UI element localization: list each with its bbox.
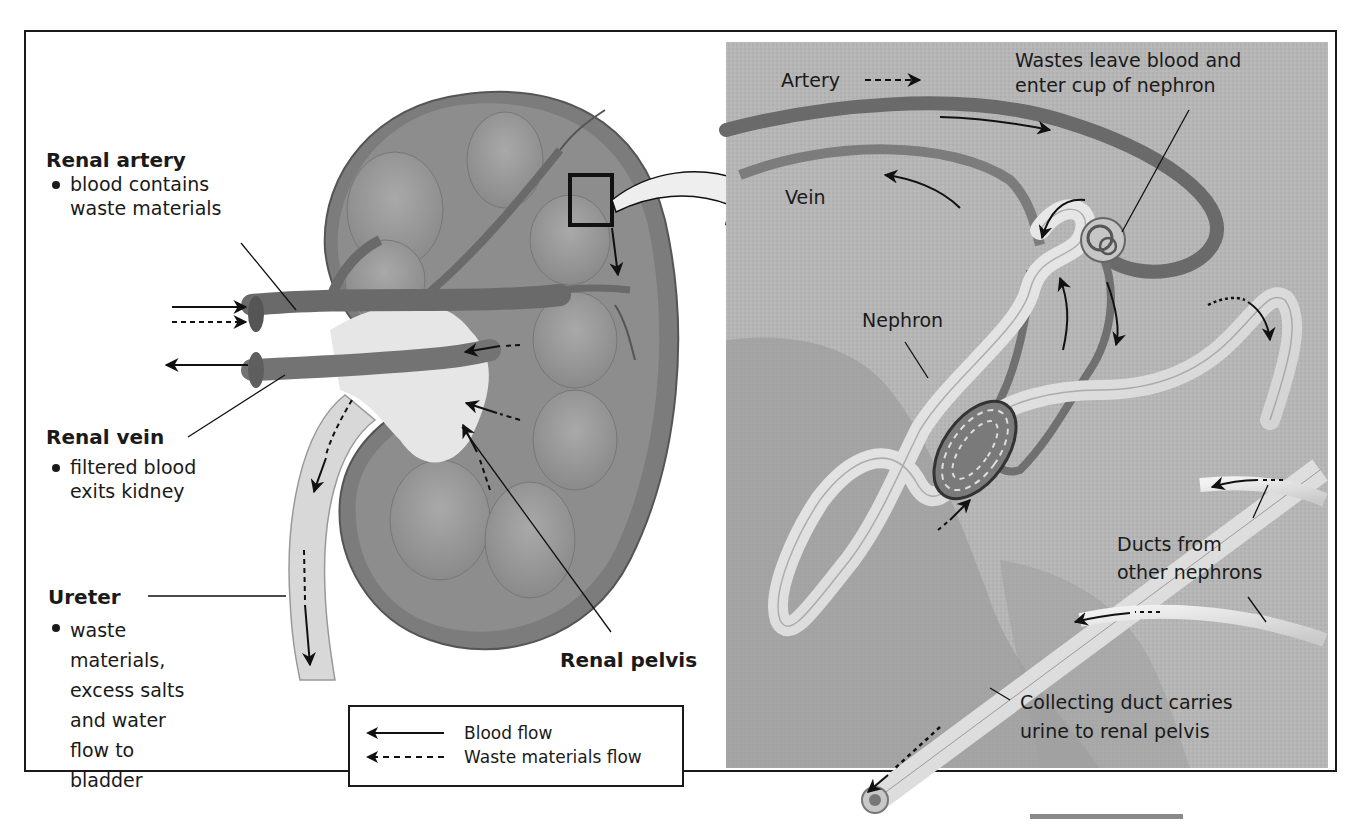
dashed-arrow-icon bbox=[366, 750, 446, 764]
vein-label: Vein bbox=[785, 185, 826, 209]
renal-artery-heading: Renal artery bbox=[46, 148, 186, 172]
renal-artery-bullet: blood contains waste materials bbox=[48, 172, 221, 220]
renal-vein-heading: Renal vein bbox=[46, 425, 164, 449]
renal-artery-description: blood contains waste materials bbox=[48, 172, 221, 220]
ureter-description: waste materials, excess salts and water … bbox=[48, 615, 184, 795]
legend-item-blood-flow: Blood flow bbox=[366, 723, 552, 743]
renal-pelvis-label: Renal pelvis bbox=[560, 648, 697, 672]
renal-vein-bullet: filtered blood exits kidney bbox=[48, 455, 196, 503]
renal-vein-description: filtered blood exits kidney bbox=[48, 455, 196, 503]
ureter-heading: Ureter bbox=[48, 585, 121, 609]
solid-arrow-icon bbox=[366, 726, 446, 740]
artery-label: Artery bbox=[781, 68, 840, 92]
kidney-illustration bbox=[148, 92, 678, 680]
nephron-label: Nephron bbox=[862, 308, 943, 332]
scale-bar bbox=[1030, 814, 1183, 819]
legend: Blood flow Waste materials flow bbox=[348, 705, 684, 787]
ducts-callout: Ducts from other nephrons bbox=[1117, 530, 1262, 586]
wastes-callout: Wastes leave blood and enter cup of neph… bbox=[1015, 48, 1241, 98]
ureter-bullet: waste materials, excess salts and water … bbox=[48, 615, 184, 795]
collecting-duct-callout: Collecting duct carries urine to renal p… bbox=[1020, 688, 1233, 746]
legend-item-waste-flow: Waste materials flow bbox=[366, 747, 642, 767]
